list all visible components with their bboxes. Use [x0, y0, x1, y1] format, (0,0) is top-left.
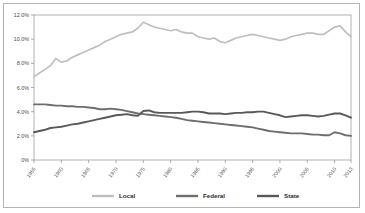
x-axis-label: 1995	[244, 166, 256, 179]
x-axis-label: 1955	[25, 166, 37, 179]
line-chart: 12.0%10.0%8.0%6.0%4.0%2.0%0%195519601965…	[4, 4, 361, 209]
x-axis-label: 2005	[298, 166, 310, 179]
x-axis-label: 1980	[162, 166, 174, 179]
y-axis-label: 10.0%	[14, 36, 29, 42]
legend-label-federal: Federal	[203, 192, 225, 199]
x-axis-label: 2010	[326, 166, 338, 179]
x-axis-label: 1970	[107, 166, 119, 179]
y-axis-label: 8.0%	[17, 60, 29, 66]
x-axis-label: 2013	[342, 166, 354, 179]
y-axis-label: 4.0%	[17, 109, 29, 115]
legend-label-state: State	[284, 192, 300, 199]
x-axis-label: 1990	[216, 166, 228, 179]
plot-area-border	[34, 15, 351, 160]
chart-frame: 12.0%10.0%8.0%6.0%4.0%2.0%0%195519601965…	[3, 3, 360, 208]
x-axis-label: 1985	[189, 166, 201, 179]
chart-plot-container: 12.0%10.0%8.0%6.0%4.0%2.0%0%195519601965…	[4, 4, 359, 207]
y-axis-label: 12.0%	[14, 12, 29, 18]
y-axis-label: 0%	[21, 157, 29, 163]
y-axis-label: 6.0%	[17, 85, 29, 91]
x-axis-label: 1960	[52, 166, 64, 179]
legend-label-local: Local	[119, 192, 135, 199]
y-axis-label: 2.0%	[17, 133, 29, 139]
x-axis-label: 1975	[134, 166, 146, 179]
x-axis-label: 2000	[271, 166, 283, 179]
series-line-federal	[34, 104, 351, 135]
x-axis-label: 1965	[80, 166, 92, 179]
series-line-local	[34, 22, 351, 76]
